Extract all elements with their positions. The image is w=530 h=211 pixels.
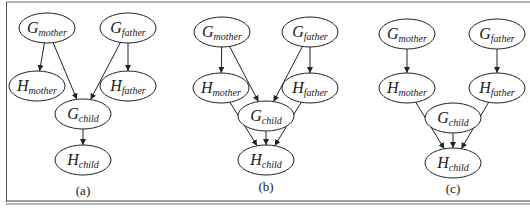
panel-caption-b: (b)	[258, 179, 273, 194]
node-G-mother: Gmother	[194, 17, 250, 47]
node-H-father: Hfather	[469, 73, 525, 103]
panel-b: GmotherGfatherHmotherHfatherGchildHchild…	[193, 17, 338, 194]
node-H-mother: Hmother	[9, 71, 65, 101]
panel-c: GmotherGfatherHmotherHfatherGchildHchild…	[379, 19, 525, 196]
node-G-child: Gchild	[55, 99, 111, 129]
node-G-father: Gfather	[282, 17, 338, 47]
node-G-child: Gchild	[238, 101, 294, 131]
node-G-child: Gchild	[425, 103, 481, 133]
node-G-father: Gfather	[100, 13, 156, 43]
node-G-father: Gfather	[469, 19, 525, 49]
panel-a: GmotherGfatherHmotherHfatherGchildHchild…	[9, 13, 156, 198]
edge-Gm-to-Hm	[40, 43, 45, 71]
panel-caption-a: (a)	[76, 183, 90, 198]
node-H-child: Hchild	[425, 148, 481, 178]
node-H-father: Hfather	[282, 73, 338, 103]
node-H-mother: Hmother	[193, 73, 249, 103]
panel-caption-c: (c)	[446, 181, 460, 196]
node-G-mother: Gmother	[19, 13, 75, 43]
node-G-mother: Gmother	[379, 19, 435, 49]
node-H-father: Hfather	[100, 71, 156, 101]
node-H-child: Hchild	[55, 145, 111, 175]
node-H-mother: Hmother	[379, 73, 435, 103]
bayes-net-figure: GmotherGfatherHmotherHfatherGchildHchild…	[0, 0, 530, 211]
node-H-child: Hchild	[238, 145, 294, 175]
